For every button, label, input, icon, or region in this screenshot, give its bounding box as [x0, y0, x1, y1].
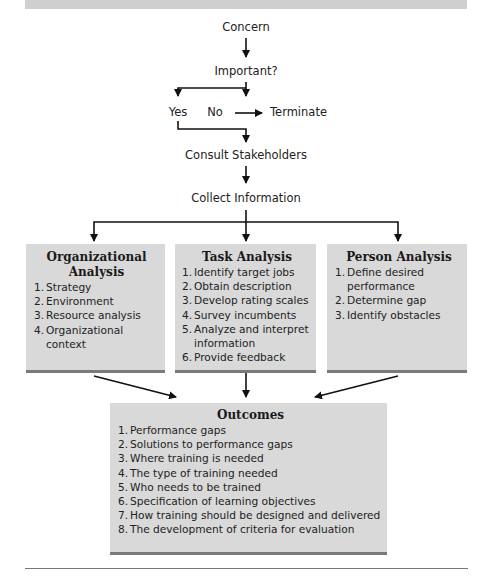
person-analysis-box: Person Analysis 1.Define desired perform…	[327, 244, 467, 373]
node-collect-information: Collect Information	[176, 191, 316, 205]
outcomes-list: 1.Performance gaps 2.Solutions to perfor…	[118, 423, 383, 537]
node-consult-stakeholders: Consult Stakeholders	[176, 148, 316, 162]
list-item: 3.Develop rating scales	[182, 293, 312, 307]
list-item: 1.Define desired performance	[335, 265, 463, 293]
list-item: 3.Identify obstacles	[335, 308, 463, 322]
bottom-divider	[25, 568, 468, 569]
organizational-analysis-title: Organizational Analysis	[34, 250, 159, 280]
list-item: 2.Solutions to performance gaps	[118, 437, 383, 451]
node-no: No	[203, 105, 227, 119]
list-item: 7.How training should be designed and de…	[118, 508, 383, 522]
list-item: 4.Survey incumbents	[182, 308, 312, 322]
node-terminate: Terminate	[270, 105, 350, 119]
node-important: Important?	[201, 64, 291, 78]
person-analysis-list: 1.Define desired performance 2.Determine…	[335, 265, 463, 322]
organizational-analysis-list: 1.Strategy 2.Environment 3.Resource anal…	[34, 280, 159, 351]
list-item: 3.Resource analysis	[34, 308, 159, 322]
outcomes-title: Outcomes	[118, 408, 383, 423]
list-item: 8.The development of criteria for evalua…	[118, 522, 383, 536]
list-item: 4.Organizational context	[34, 323, 159, 351]
list-item: 5.Analyze and interpret information	[182, 322, 312, 350]
task-analysis-title: Task Analysis	[182, 250, 312, 265]
list-item: 2.Obtain description	[182, 279, 312, 293]
list-item: 2.Determine gap	[335, 293, 463, 307]
list-item: 6.Specification of learning objectives	[118, 494, 383, 508]
list-item: 6.Provide feedback	[182, 350, 312, 364]
list-item: 2.Environment	[34, 294, 159, 308]
node-concern: Concern	[206, 20, 286, 34]
list-item: 1.Performance gaps	[118, 423, 383, 437]
list-item: 5.Who needs to be trained	[118, 480, 383, 494]
organizational-analysis-box: Organizational Analysis 1.Strategy 2.Env…	[26, 244, 165, 373]
task-analysis-box: Task Analysis 1.Identify target jobs 2.O…	[175, 244, 316, 373]
person-analysis-title: Person Analysis	[335, 250, 463, 265]
list-item: 4.The type of training needed	[118, 466, 383, 480]
node-yes: Yes	[163, 105, 193, 119]
list-item: 1.Identify target jobs	[182, 265, 312, 279]
list-item: 1.Strategy	[34, 280, 159, 294]
task-analysis-list: 1.Identify target jobs 2.Obtain descript…	[182, 265, 312, 364]
outcomes-box: Outcomes 1.Performance gaps 2.Solutions …	[110, 403, 387, 555]
list-item: 3.Where training is needed	[118, 451, 383, 465]
